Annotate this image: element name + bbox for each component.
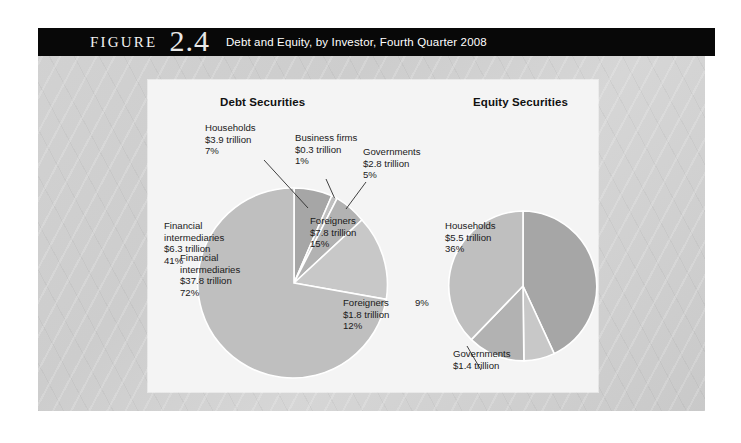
equity-foreigners-amount: $1.8 trillion (343, 309, 389, 321)
equity-households-name: Households (445, 220, 496, 232)
figure-title-bar: FIGURE 2.4 Debt and Equity, by Investor,… (38, 28, 715, 56)
debt-financial-amount: $37.8 trillion (180, 275, 240, 287)
equity-governments-amount: $1.4 trillion (453, 360, 511, 372)
debt-label-foreigners: Foreigners $7.8 trillion 15% (310, 215, 356, 250)
debt-label-households: Households $3.9 trillion 7% (205, 122, 256, 157)
equity-financial-amount: $6.3 trillion (164, 243, 224, 255)
figure-page: FIGURE 2.4 Debt and Equity, by Investor,… (38, 28, 705, 411)
equity-label-financial-intermediaries: Financial intermediaries $6.3 trillion 4… (164, 220, 224, 266)
equity-label-governments-percent: 9% (415, 297, 429, 309)
equity-financial-percent: 41% (164, 255, 224, 267)
debt-governments-percent: 5% (363, 169, 421, 181)
debt-business-amount: $0.3 trillion (295, 144, 357, 156)
figure-label: FIGURE (90, 34, 157, 51)
debt-foreigners-name: Foreigners (310, 215, 356, 227)
figure-title: Debt and Equity, by Investor, Fourth Qua… (226, 36, 487, 48)
equity-households-percent: 36% (445, 243, 496, 255)
debt-label-governments: Governments $2.8 trillion 5% (363, 146, 421, 181)
equity-foreigners-name: Foreigners (343, 297, 389, 309)
debt-foreigners-percent: 15% (310, 238, 356, 250)
debt-business-percent: 1% (295, 155, 357, 167)
equity-financial-name: Financial intermediaries (164, 220, 224, 243)
debt-business-name: Business firms (295, 132, 357, 144)
debt-households-percent: 7% (205, 145, 256, 157)
debt-financial-percent: 72% (180, 287, 240, 299)
equity-label-households: Households $5.5 trillion 36% (445, 220, 496, 255)
chart-panel: Debt Securities Equity Securities (148, 80, 598, 392)
equity-governments-name: Governments (453, 348, 511, 360)
debt-households-name: Households (205, 122, 256, 134)
debt-households-amount: $3.9 trillion (205, 134, 256, 146)
equity-label-governments: Governments $1.4 trillion (453, 348, 511, 371)
equity-label-foreigners: Foreigners $1.8 trillion 12% (343, 297, 389, 332)
equity-households-amount: $5.5 trillion (445, 232, 496, 244)
debt-governments-amount: $2.8 trillion (363, 158, 421, 170)
equity-foreigners-percent: 12% (343, 320, 389, 332)
figure-number: 2.4 (169, 28, 210, 56)
debt-governments-leader (346, 182, 366, 209)
debt-foreigners-amount: $7.8 trillion (310, 227, 356, 239)
debt-governments-name: Governments (363, 146, 421, 158)
debt-label-business-firms: Business firms $0.3 trillion 1% (295, 132, 357, 167)
